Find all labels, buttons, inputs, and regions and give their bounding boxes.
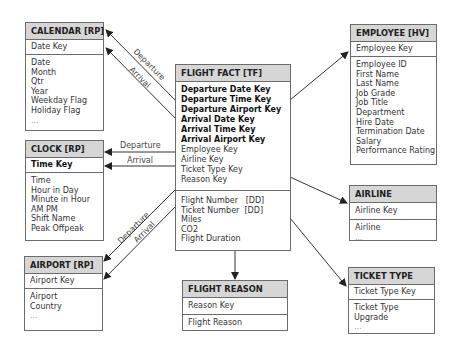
employee-entity[interactable]: EMPLOYEE [HV] Employee Key Employee IDFi… (350, 24, 437, 165)
entity-title: AIRLINE (350, 186, 436, 203)
entity-keys: Departure Date KeyDeparture Time KeyDepa… (176, 82, 290, 191)
ticket-type-arrow (290, 218, 346, 286)
attribute-field: Last Name (356, 79, 431, 89)
attribute-field: ... (354, 322, 429, 332)
entity-keys: Reason Key (183, 298, 287, 315)
attribute-field: ... (30, 311, 97, 321)
airline-arrow (290, 177, 347, 203)
attribute-field: Ticket Type (354, 303, 429, 313)
entity-keys: Employee Key (351, 42, 436, 57)
attribute-field: Ticket Number [DD] (181, 206, 285, 216)
entity-keys: Airline Key (350, 203, 436, 220)
attribute-field: Hour in Day (31, 186, 98, 196)
entity-keys: Time Key (26, 158, 103, 173)
clock-entity[interactable]: CLOCK [RP] Time Key TimeHour in DayMinut… (25, 140, 104, 241)
key-field: Ticket Type Key (181, 165, 285, 175)
entity-attributes: AirportCountry... (25, 289, 102, 324)
entity-attributes: Flight Reason (183, 315, 287, 331)
attribute-field: Flight Reason (188, 318, 282, 328)
attribute-field: Employee ID (356, 60, 431, 70)
attribute-field: Job Grade (356, 89, 431, 99)
key-field: Airline Key (181, 155, 285, 165)
attribute-field: Holiday Flag (31, 106, 98, 116)
attribute-field: AM PM (31, 205, 98, 215)
attribute-field: First Name (356, 70, 431, 80)
key-field: Reason Key (188, 301, 282, 311)
entity-attributes: DateMonthQtrYearWeekday FlagHoliday Flag… (26, 55, 103, 128)
entity-keys: Ticket Type Key (349, 285, 434, 300)
calendar-entity[interactable]: CALENDAR [RP] Date Key DateMonthQtrYearW… (25, 22, 104, 131)
attribute-field: Airline (355, 223, 431, 233)
key-field: Time Key (31, 160, 98, 170)
employee-arrow (290, 52, 348, 100)
airline-entity[interactable]: AIRLINE Airline Key Airline... (349, 185, 437, 241)
entity-title: FLIGHT FACT [TF] (176, 65, 290, 82)
attribute-field: ... (355, 233, 431, 243)
entity-title: CLOCK [RP] (26, 141, 103, 158)
attribute-field: Upgrade (354, 313, 429, 323)
key-field: Departure Time Key (181, 95, 285, 105)
key-field: Airport Key (30, 276, 97, 286)
attribute-field: Qtr (31, 77, 98, 87)
entity-title: AIRPORT [RP] (25, 257, 102, 274)
attribute-field: Airport (30, 292, 97, 302)
attribute-field: Flight Duration (181, 234, 285, 244)
flight-reason-entity[interactable]: FLIGHT REASON Reason Key Flight Reason (182, 280, 288, 331)
key-field: Departure Airport Key (181, 105, 285, 115)
key-field: Arrival Airport Key (181, 135, 285, 145)
key-field: Arrival Time Key (181, 125, 285, 135)
attribute-field: Month (31, 68, 98, 78)
attribute-field: Miles (181, 215, 285, 225)
entity-attributes: Ticket TypeUpgrade... (349, 300, 434, 335)
attribute-field: Performance Rating (356, 146, 431, 156)
flight-fact-entity[interactable]: FLIGHT FACT [TF] Departure Date KeyDepar… (175, 64, 291, 251)
entity-attributes: Airline... (350, 220, 436, 245)
attribute-field: Salary (356, 137, 431, 147)
attribute-field: Job Title (356, 98, 431, 108)
entity-title: EMPLOYEE [HV] (351, 25, 436, 42)
entity-attributes: Flight Number [DD]Ticket Number [DD]Mile… (176, 191, 290, 247)
attribute-field: Country (30, 302, 97, 312)
key-field: Employee Key (356, 44, 431, 54)
entity-attributes: TimeHour in DayMinute in HourAM PMShift … (26, 173, 103, 237)
calendar-departure-arrow (106, 30, 180, 105)
attribute-field: ... (31, 116, 98, 126)
airport-entity[interactable]: AIRPORT [RP] Airport Key AirportCountry.… (24, 256, 103, 331)
key-field: Date Key (31, 42, 98, 52)
entity-attributes: Employee IDFirst NameLast NameJob GradeJ… (351, 57, 436, 159)
attribute-field: Termination Date (356, 127, 431, 137)
key-field: Employee Key (181, 145, 285, 155)
key-field: Ticket Type Key (354, 287, 429, 297)
attribute-field: Year (31, 87, 98, 97)
attribute-field: Department (356, 108, 431, 118)
entity-title: FLIGHT REASON (183, 281, 287, 298)
key-field: Airline Key (355, 206, 431, 216)
attribute-field: Hire Date (356, 118, 431, 128)
attribute-field: Date (31, 58, 98, 68)
ticket-type-entity[interactable]: TICKET TYPE Ticket Type Key Ticket TypeU… (348, 267, 435, 334)
attribute-field: Minute in Hour (31, 195, 98, 205)
entity-title: CALENDAR [RP] (26, 23, 103, 40)
clock-arrival-label: Arrival (127, 156, 153, 165)
key-field: Departure Date Key (181, 85, 285, 95)
entity-keys: Date Key (26, 40, 103, 55)
key-field: Reason Key (181, 175, 285, 185)
attribute-field: CO2 (181, 225, 285, 235)
attribute-field: Time (31, 176, 98, 186)
clock-departure-label: Departure (120, 141, 161, 150)
attribute-field: Weekday Flag (31, 96, 98, 106)
key-field: Arrival Date Key (181, 115, 285, 125)
entity-title: TICKET TYPE (349, 268, 434, 285)
attribute-field: Peak Offpeak (31, 224, 98, 234)
attribute-field: Shift Name (31, 214, 98, 224)
attribute-field: Flight Number [DD] (181, 196, 285, 206)
entity-keys: Airport Key (25, 274, 102, 289)
